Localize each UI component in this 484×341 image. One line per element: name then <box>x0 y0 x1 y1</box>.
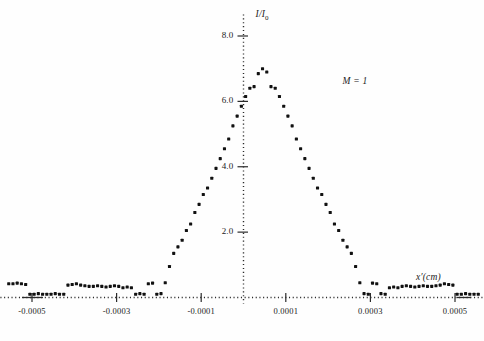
data-point <box>430 285 433 288</box>
data-point <box>33 293 36 296</box>
data-point <box>388 286 391 289</box>
data-point <box>456 293 459 296</box>
data-point <box>337 229 340 232</box>
data-point <box>138 292 141 295</box>
data-point <box>83 284 86 287</box>
data-point <box>375 282 378 285</box>
data-point <box>303 157 306 160</box>
data-point <box>143 293 146 296</box>
x-tick-label-2: -0.0001 <box>171 306 231 316</box>
data-point <box>401 285 404 288</box>
data-point <box>16 282 19 285</box>
data-point <box>282 105 285 108</box>
data-point <box>210 177 213 180</box>
data-point <box>219 157 222 160</box>
data-point <box>206 186 209 189</box>
data-point <box>75 282 78 285</box>
data-point <box>41 293 44 296</box>
data-point <box>227 137 230 140</box>
data-point <box>62 293 65 296</box>
data-point <box>104 285 107 288</box>
y-tick-label-3: 8.0 <box>204 30 234 40</box>
data-point <box>185 229 188 232</box>
data-point <box>295 137 298 140</box>
data-point <box>477 293 480 296</box>
data-point <box>451 284 454 287</box>
data-point <box>37 292 40 295</box>
x-tick-label-4: 0.0003 <box>340 306 400 316</box>
data-point <box>308 167 311 170</box>
x-axis-title: x′(cm) <box>416 272 441 282</box>
data-point <box>253 85 256 88</box>
data-point <box>117 285 120 288</box>
data-point <box>363 292 366 295</box>
data-point <box>54 292 57 295</box>
data-point <box>286 115 289 118</box>
data-point <box>265 70 268 73</box>
data-point <box>248 87 251 90</box>
data-point <box>11 282 14 285</box>
data-point <box>384 293 387 296</box>
data-point <box>121 286 124 289</box>
data-point <box>28 293 31 296</box>
data-point <box>468 293 471 296</box>
data-point <box>299 147 302 150</box>
data-point <box>176 245 179 248</box>
data-point <box>261 67 264 70</box>
data-point <box>329 211 332 214</box>
data-point <box>443 282 446 285</box>
y-tick-label-0: 2.0 <box>204 226 234 236</box>
data-point <box>417 285 420 288</box>
data-point <box>88 285 91 288</box>
chart-figure: 2.04.06.08.0-0.0005-0.0003-0.00010.00010… <box>0 0 484 341</box>
data-point <box>346 245 349 248</box>
x-tick-label-3: 0.0001 <box>256 306 316 316</box>
data-point <box>278 95 281 98</box>
data-point <box>66 284 69 287</box>
data-point <box>354 265 357 268</box>
data-point <box>464 292 467 295</box>
data-point <box>109 285 112 288</box>
data-point <box>134 293 137 296</box>
data-point <box>341 239 344 242</box>
data-point <box>312 177 315 180</box>
data-point <box>126 285 129 288</box>
y-axis-title: I/I0 <box>256 9 269 22</box>
data-point <box>291 124 294 127</box>
data-point <box>236 115 239 118</box>
data-point <box>316 186 319 189</box>
data-point <box>324 203 327 206</box>
data-point <box>396 286 399 289</box>
data-point <box>130 286 133 289</box>
data-point <box>333 222 336 225</box>
annotation-m-equals-1: M = 1 <box>343 76 368 86</box>
x-tick-label-1: -0.0003 <box>87 306 147 316</box>
data-point <box>358 281 361 284</box>
data-point <box>422 284 425 287</box>
x-tick-label-5: 0.0005 <box>425 306 484 316</box>
data-point <box>159 292 162 295</box>
data-point <box>198 203 201 206</box>
data-point <box>274 87 277 90</box>
data-point <box>155 293 158 296</box>
data-point <box>100 285 103 288</box>
data-point <box>426 285 429 288</box>
data-point <box>202 193 205 196</box>
data-point <box>172 252 175 255</box>
data-point <box>147 282 150 285</box>
y-tick-label-2: 6.0 <box>204 95 234 105</box>
data-point <box>409 285 412 288</box>
data-point <box>240 105 243 108</box>
data-point <box>472 293 475 296</box>
data-point <box>71 283 74 286</box>
x-tick-label-0: -0.0005 <box>2 306 62 316</box>
data-point <box>460 293 463 296</box>
data-point <box>24 283 27 286</box>
data-point <box>96 284 99 287</box>
data-point <box>320 193 323 196</box>
data-point <box>367 293 370 296</box>
data-point <box>45 293 48 296</box>
scatter-plot-canvas <box>0 0 484 341</box>
data-point <box>168 265 171 268</box>
data-point <box>231 124 234 127</box>
